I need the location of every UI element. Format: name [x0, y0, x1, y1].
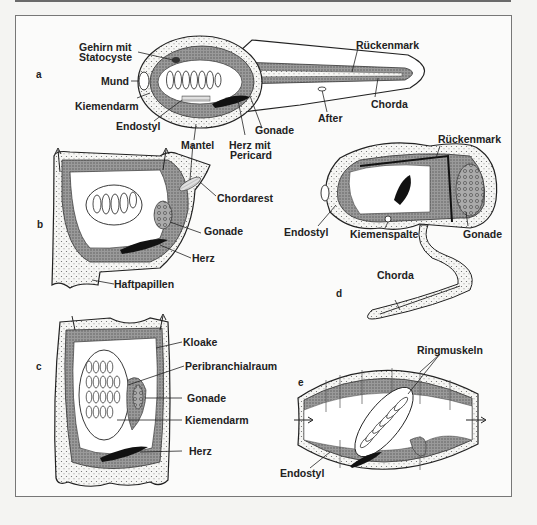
- panel-letter-c: c: [36, 361, 42, 372]
- label-after: After: [318, 113, 343, 124]
- panel-e-doliolum: [294, 354, 486, 470]
- label-kloake: Kloake: [183, 337, 217, 348]
- panel-letter-d: d: [336, 288, 342, 299]
- label-endostyl-d: Endostyl: [284, 227, 328, 238]
- label-kiemenspalte: Kiemenspalte: [350, 229, 418, 240]
- label-gonade-d: Gonade: [463, 229, 502, 240]
- label-ringmuskeln: Ringmuskeln: [417, 345, 483, 356]
- panel-c-adult-ascidian: [55, 314, 184, 486]
- label-chorda-d: Chorda: [377, 270, 414, 281]
- label-kiemendarm-c: Kiemendarm: [185, 415, 249, 426]
- label-haftpapillen: Haftpapillen: [114, 279, 174, 290]
- label-pericard: Pericard: [230, 150, 272, 161]
- label-gonade-c: Gonade: [187, 393, 226, 404]
- panel-letter-b: b: [37, 219, 43, 230]
- label-gonade-b: Gonade: [204, 226, 243, 237]
- label-rueckenmark-d: Rückenmark: [438, 134, 501, 145]
- label-endostyl-a: Endostyl: [116, 121, 160, 132]
- label-herz-b: Herz: [192, 253, 215, 264]
- label-chorda-a: Chorda: [371, 99, 408, 110]
- label-rueckenmark-a: Rückenmark: [356, 40, 419, 51]
- panel-letter-e: e: [298, 377, 304, 388]
- tunicate-diagram: [0, 0, 537, 525]
- label-endostyl-e: Endostyl: [280, 468, 324, 479]
- label-kiemendarm-a: Kiemendarm: [75, 101, 139, 112]
- label-peribranchialraum: Peribranchialraum: [185, 361, 277, 372]
- label-herz-c: Herz: [189, 446, 212, 457]
- panel-b-metamorphosis: [52, 143, 216, 288]
- label-mund: Mund: [101, 76, 129, 87]
- label-mantel: Mantel: [181, 140, 214, 151]
- panel-letter-a: a: [36, 69, 42, 80]
- label-chordarest: Chordarest: [217, 193, 273, 204]
- label-gonade-a: Gonade: [255, 125, 294, 136]
- label-statocyste: Statocyste: [79, 52, 132, 63]
